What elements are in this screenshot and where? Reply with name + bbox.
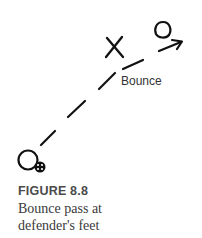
ball-icon [35, 162, 46, 173]
caption-line: Bounce pass at [18, 200, 102, 217]
figure-caption: Bounce pass at defender's feet [18, 200, 102, 234]
caption-line: defender's feet [18, 217, 102, 234]
figure-title: FIGURE 8.8 [18, 184, 88, 198]
movement-arrow-icon [159, 40, 182, 51]
bounce-label: Bounce [121, 74, 162, 88]
receiver-circle-icon [155, 22, 170, 38]
defender-x-icon [106, 37, 123, 57]
pass-path-dashed-line [41, 60, 143, 145]
